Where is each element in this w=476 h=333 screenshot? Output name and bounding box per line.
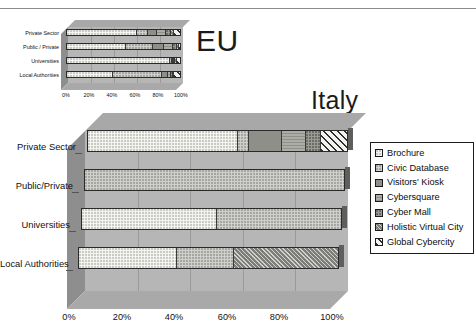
legend-swatch-cybersquare bbox=[375, 194, 383, 202]
italy-bar-private-sector bbox=[87, 130, 348, 152]
eu-bar-universities bbox=[66, 57, 181, 64]
eu-bar-local-authorities bbox=[66, 71, 181, 78]
eu-bar-private-sector bbox=[66, 29, 181, 36]
italy-chart-legend: Brochure Civic Database Visitors' Kiosk … bbox=[370, 142, 474, 254]
legend-swatch-visitors-kiosk bbox=[375, 179, 383, 187]
italy-bar-cap-public-private bbox=[345, 167, 350, 189]
legend-item-cybersquare: Cybersquare bbox=[375, 190, 470, 205]
eu-bar-public-private bbox=[66, 43, 181, 50]
italy-bar-local-authorities bbox=[78, 247, 339, 269]
italy-plot-top-face bbox=[85, 113, 366, 131]
italy-bar-cap-private-sector bbox=[348, 128, 353, 150]
eu-ylabel-local-authorities: Local Authorities bbox=[0, 72, 59, 78]
italy-xtick-80: 80% bbox=[264, 312, 294, 322]
legend-label-cybersquare: Cybersquare bbox=[387, 193, 440, 202]
italy-bar-cap-universities bbox=[342, 206, 347, 228]
italy-ytick-3 bbox=[69, 231, 76, 232]
italy-bar-cap-local-authorities bbox=[339, 245, 344, 267]
legend-item-civic-database: Civic Database bbox=[375, 161, 470, 176]
legend-swatch-brochure bbox=[375, 149, 383, 157]
top-divider-rule bbox=[0, 8, 476, 9]
italy-plot-floor bbox=[67, 291, 348, 309]
legend-swatch-holistic-virtual-city bbox=[375, 223, 383, 231]
italy-ylabel-public-private: Public/Private bbox=[0, 180, 73, 191]
italy-xtick-40: 40% bbox=[159, 312, 189, 322]
italy-xtick-20: 20% bbox=[107, 312, 137, 322]
legend-label-global-cybercity: Global Cybercity bbox=[387, 238, 454, 247]
italy-ylabel-private-sector: Private Sector bbox=[0, 141, 76, 152]
legend-item-brochure: Brochure bbox=[375, 146, 470, 161]
legend-swatch-cyber-mall bbox=[375, 209, 383, 217]
italy-bar-public-private bbox=[84, 169, 345, 191]
eu-chart-title: EU bbox=[196, 24, 239, 58]
italy-ytick-1 bbox=[75, 153, 82, 154]
italy-ylabel-local-authorities: Local Authorities bbox=[0, 258, 67, 269]
eu-ylabel-private-sector: Private Sector bbox=[0, 30, 59, 36]
legend-label-cyber-mall: Cyber Mall bbox=[387, 208, 431, 217]
italy-ylabel-universities: Universities bbox=[0, 219, 70, 230]
eu-ylabel-universities: Universities bbox=[0, 58, 59, 64]
legend-item-global-cybercity: Global Cybercity bbox=[375, 235, 470, 250]
legend-label-visitors-kiosk: Visitors' Kiosk bbox=[387, 178, 444, 187]
italy-chart-title: Italy bbox=[311, 86, 358, 115]
legend-item-holistic-virtual-city: Holistic Virtual City bbox=[375, 220, 470, 235]
legend-item-cyber-mall: Cyber Mall bbox=[375, 205, 470, 220]
italy-xtick-0: 0% bbox=[54, 312, 84, 322]
legend-swatch-global-cybercity bbox=[375, 238, 383, 246]
italy-ytick-2 bbox=[72, 192, 79, 193]
eu-plot-top-face bbox=[68, 20, 190, 27]
italy-xtick-100: 100% bbox=[317, 312, 347, 322]
eu-ylabel-public-private: Public / Private bbox=[0, 44, 59, 50]
legend-label-brochure: Brochure bbox=[387, 149, 424, 158]
italy-ytick-4 bbox=[66, 270, 73, 271]
legend-swatch-civic-database bbox=[375, 164, 383, 172]
legend-item-visitors-kiosk: Visitors' Kiosk bbox=[375, 176, 470, 191]
italy-bar-universities bbox=[81, 208, 342, 230]
legend-label-civic-database: Civic Database bbox=[387, 164, 449, 173]
legend-label-holistic-virtual-city: Holistic Virtual City bbox=[387, 223, 463, 232]
italy-xtick-60: 60% bbox=[212, 312, 242, 322]
